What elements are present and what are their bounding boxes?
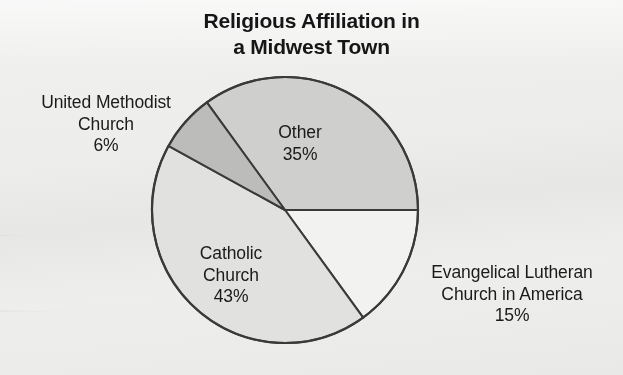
slice-label-evangelical-lutheran-church-in-america: Evangelical Lutheran Church in America 1… (404, 262, 620, 327)
slice-label-catholic-church: Catholic Church 43% (166, 243, 296, 308)
slice-label-united-methodist-church: United Methodist Church 6% (8, 92, 204, 157)
pie-chart-figure: Religious Affiliation in a Midwest Town … (0, 0, 623, 375)
slice-label-other: Other 35% (252, 122, 348, 165)
